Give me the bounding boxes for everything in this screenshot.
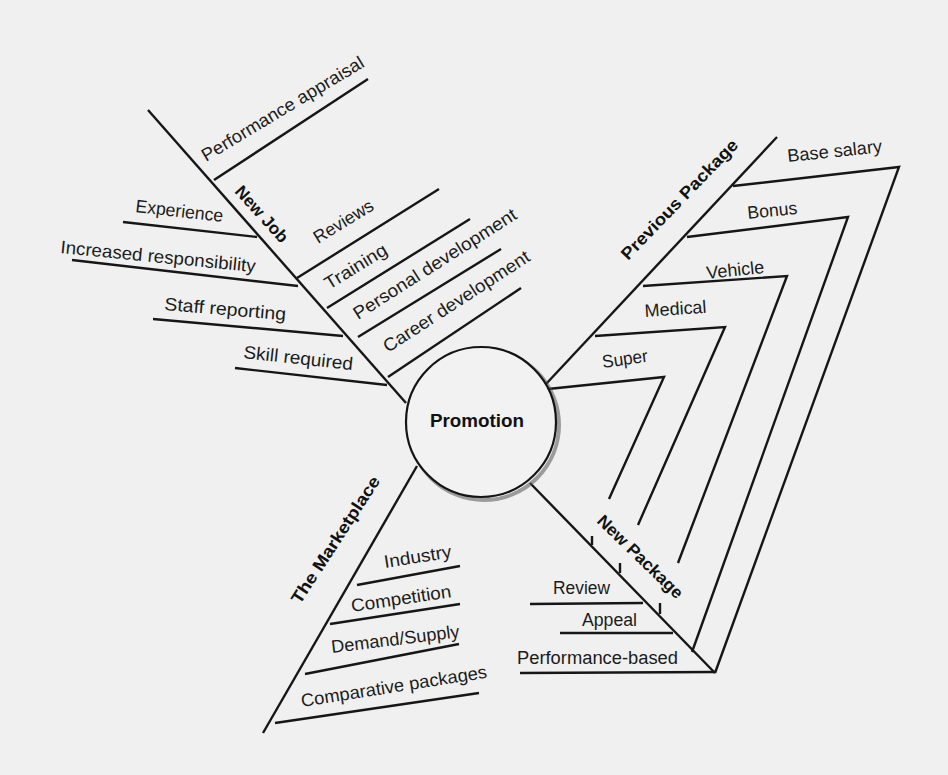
item-label-skill-required: Skill required [243, 342, 355, 374]
mind-map-diagram: New Job Performance appraisal Experience… [0, 0, 948, 775]
item-label-performance-based: Performance-based [517, 648, 678, 668]
item-line-staff-reporting [153, 319, 343, 336]
item-label-bonus: Bonus [746, 198, 798, 223]
item-label-demand-supply: Demand/Supply [330, 621, 460, 657]
item-label-competition: Competition [350, 581, 453, 616]
item-label-training: Training [321, 240, 391, 294]
item-line-base-salary [715, 167, 899, 673]
item-label-experience: Experience [135, 196, 225, 226]
item-line-super [548, 377, 664, 499]
item-label-career-development: Career development [379, 246, 533, 356]
branch-label-the-marketplace: The Marketplace [287, 473, 384, 607]
item-label-review: Review [553, 578, 611, 598]
item-line-experience [123, 222, 257, 237]
item-label-super: Super [601, 346, 649, 372]
item-line-skill-required [235, 368, 387, 385]
center-node-label: Promotion [430, 410, 524, 431]
item-line-review [530, 603, 643, 604]
branch-new-package: New Package Review Appeal Performance-ba… [517, 483, 715, 673]
item-line-performance-based [520, 672, 715, 673]
item-label-base-salary: Base salary [786, 136, 883, 166]
branch-label-previous-package: Previous Package [617, 135, 742, 263]
item-label-industry: Industry [382, 542, 452, 572]
branch-the-marketplace: The Marketplace Industry Competition Dem… [263, 466, 488, 733]
item-label-staff-reporting: Staff reporting [164, 294, 287, 324]
item-label-reviews: Reviews [310, 195, 378, 247]
item-label-medical: Medical [644, 297, 707, 321]
item-label-appeal: Appeal [582, 610, 637, 630]
item-label-performance-appraisal: Performance appraisal [198, 52, 368, 165]
center-node: Promotion [406, 347, 559, 500]
